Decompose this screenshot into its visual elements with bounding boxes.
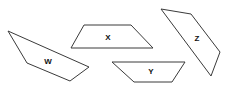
label-y: Y [148, 67, 154, 76]
label-w: W [44, 57, 52, 66]
quadrilaterals-diagram: W X Y Z [0, 0, 227, 91]
label-z: Z [195, 34, 200, 43]
quadrilateral-x [71, 25, 153, 48]
shape-y: Y [112, 62, 185, 82]
label-x: X [105, 33, 111, 42]
shape-x: X [71, 25, 153, 48]
